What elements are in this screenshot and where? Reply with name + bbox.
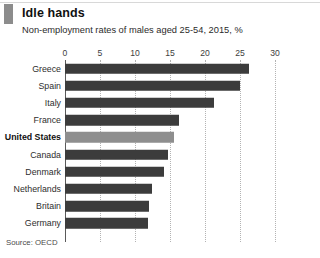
chart-subtitle: Non-employment rates of males aged 25-54… <box>22 25 243 35</box>
bar-france <box>65 115 179 126</box>
category-label-britain: Britain <box>36 201 61 211</box>
bar-chart: 051015202530 GreeceSpainItalyFranceUnite… <box>0 48 320 248</box>
bar-spain <box>65 81 240 92</box>
bar-row: France <box>0 112 320 129</box>
chart-page: Idle hands Non-employment rates of males… <box>0 0 320 258</box>
x-tick-label-5: 5 <box>98 48 103 58</box>
plot-area: GreeceSpainItalyFranceUnited StatesCanad… <box>0 60 320 242</box>
x-axis-tick-labels: 051015202530 <box>0 48 320 60</box>
bar-netherlands <box>65 184 152 195</box>
brand-tag <box>4 4 13 24</box>
category-label-netherlands: Netherlands <box>14 184 61 194</box>
x-tick-label-10: 10 <box>130 48 140 58</box>
bar-row: Germany <box>0 215 320 232</box>
category-label-canada: Canada <box>30 150 61 160</box>
bar-row: Denmark <box>0 163 320 180</box>
category-label-greece: Greece <box>32 64 61 74</box>
category-label-united-states: United States <box>5 132 61 142</box>
x-tick-label-15: 15 <box>165 48 175 58</box>
bar-germany <box>65 218 148 229</box>
bar-italy <box>65 98 214 109</box>
bar-row: Britain <box>0 198 320 215</box>
x-tick-label-0: 0 <box>63 48 68 58</box>
category-label-france: France <box>34 115 61 125</box>
category-label-spain: Spain <box>39 81 62 91</box>
bar-canada <box>65 149 168 160</box>
bar-greece <box>65 63 249 74</box>
category-label-germany: Germany <box>25 218 61 228</box>
category-label-italy: Italy <box>45 98 61 108</box>
bar-row: Spain <box>0 77 320 94</box>
x-tick-label-20: 20 <box>200 48 210 58</box>
bar-britain <box>65 201 149 212</box>
x-tick-label-25: 25 <box>235 48 245 58</box>
page-title: Idle hands <box>22 6 85 20</box>
source-note: Source: OECD <box>6 238 58 247</box>
top-divider <box>0 2 320 3</box>
category-label-denmark: Denmark <box>25 167 61 177</box>
x-tick-label-30: 30 <box>270 48 280 58</box>
bar-row: United States <box>0 129 320 146</box>
bar-denmark <box>65 167 164 178</box>
bar-row: Canada <box>0 146 320 163</box>
bar-row: Greece <box>0 60 320 77</box>
bar-united-states <box>65 132 174 143</box>
bar-row: Netherlands <box>0 180 320 197</box>
bar-row: Italy <box>0 94 320 111</box>
